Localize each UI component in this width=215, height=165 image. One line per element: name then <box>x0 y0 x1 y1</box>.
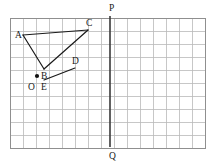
label-a: A <box>15 30 22 40</box>
label-p: P <box>109 3 114 13</box>
label-c: C <box>86 18 92 28</box>
figure-canvas: ABCDEOPQ <box>0 0 215 165</box>
label-q: Q <box>109 151 116 161</box>
grid-lines <box>10 18 205 148</box>
figure-segments <box>23 30 88 80</box>
label-d: D <box>72 56 79 66</box>
segment-ab <box>23 35 44 69</box>
geometry-figure: ABCDEOPQ <box>0 0 215 165</box>
segment-bc <box>44 30 88 69</box>
label-o: O <box>28 82 35 92</box>
label-b: B <box>41 71 47 81</box>
point-marker-o <box>35 74 39 78</box>
point-markers <box>35 74 39 78</box>
label-e: E <box>41 82 47 92</box>
